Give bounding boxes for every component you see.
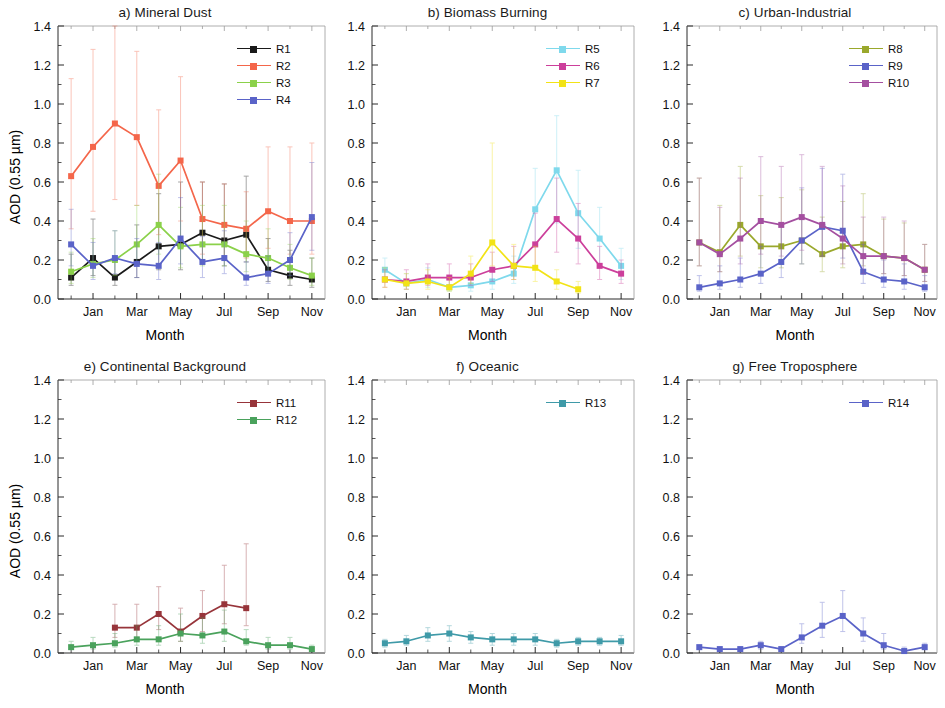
series-marker-R14 <box>799 634 805 640</box>
legend-label: R8 <box>888 43 903 55</box>
x-tick-label: Sep <box>567 659 589 673</box>
x-tick-label: May <box>480 305 504 319</box>
legend-label: R13 <box>585 397 606 409</box>
series-line-R12 <box>71 632 312 650</box>
plot-area-a: 0.00.20.40.60.81.01.21.4JanMarMayJulSepN… <box>14 22 341 345</box>
series-marker-R13 <box>532 636 538 642</box>
series-marker-R9 <box>717 280 723 286</box>
series-marker-R6 <box>575 236 581 242</box>
y-tick-label: 0.8 <box>34 137 51 151</box>
legend-item-R5[interactable]: R5 <box>546 40 600 57</box>
series-marker-R14 <box>778 646 784 652</box>
legend-item-R6[interactable]: R6 <box>546 57 600 74</box>
x-tick-label: Mar <box>750 659 772 673</box>
series-marker-R14 <box>758 642 764 648</box>
x-axis-label: Month <box>645 327 945 343</box>
x-tick-label: Sep <box>257 659 279 673</box>
series-line-R7 <box>385 242 578 289</box>
legend-item-R2[interactable]: R2 <box>237 57 291 74</box>
series-marker-R13 <box>446 631 452 637</box>
series-marker-R10 <box>881 253 887 259</box>
legend-item-R1[interactable]: R1 <box>237 40 291 57</box>
series-marker-R13 <box>403 638 409 644</box>
legend-swatch-icon <box>546 77 580 88</box>
series-marker-R4 <box>309 214 315 220</box>
legend-label: R12 <box>276 414 297 426</box>
series-marker-R13 <box>575 638 581 644</box>
y-tick-label: 0.0 <box>34 293 51 307</box>
y-tick-label: 0.8 <box>348 137 365 151</box>
series-marker-R3 <box>243 251 249 257</box>
series-marker-R7 <box>532 265 538 271</box>
series-marker-R14 <box>881 642 887 648</box>
legend-item-R10[interactable]: R10 <box>849 74 909 91</box>
series-marker-R2 <box>134 134 140 140</box>
series-marker-R10 <box>778 222 784 228</box>
series-marker-R4 <box>265 271 271 277</box>
error-bars-R1 <box>69 176 315 287</box>
series-marker-R12 <box>221 629 227 635</box>
legend-a: R1R2R3R4 <box>237 40 291 108</box>
chart-panel-g: g) Free Troposphere0.00.20.40.60.81.01.2… <box>645 354 945 708</box>
legend-label: R14 <box>888 397 909 409</box>
x-tick-label: May <box>169 305 193 319</box>
series-marker-R5 <box>532 206 538 212</box>
series-marker-R4 <box>112 255 118 261</box>
y-tick-label: 1.0 <box>663 452 680 466</box>
series-marker-R7 <box>425 278 431 284</box>
legend-swatch-icon <box>237 77 271 88</box>
y-tick-label: 0.8 <box>663 491 680 505</box>
y-tick-label: 0.8 <box>348 491 365 505</box>
x-tick-label: Nov <box>301 305 324 319</box>
legend-item-R9[interactable]: R9 <box>849 57 909 74</box>
x-axis-label: Month <box>330 327 645 343</box>
legend-e: R11R12 <box>237 394 297 428</box>
series-marker-R4 <box>178 236 184 242</box>
series-marker-R2 <box>112 121 118 127</box>
series-marker-R12 <box>265 642 271 648</box>
x-axis-label: Month <box>330 681 645 697</box>
series-marker-R10 <box>922 267 928 273</box>
series-marker-R12 <box>156 636 162 642</box>
legend-item-R14[interactable]: R14 <box>849 394 909 411</box>
legend-item-R13[interactable]: R13 <box>546 394 606 411</box>
x-tick-label: May <box>790 305 814 319</box>
legend-item-R11[interactable]: R11 <box>237 394 297 411</box>
legend-item-R12[interactable]: R12 <box>237 411 297 428</box>
x-tick-label: Mar <box>439 305 461 319</box>
series-marker-R7 <box>382 277 388 283</box>
y-tick-label: 0.4 <box>34 215 51 229</box>
series-marker-R10 <box>799 214 805 220</box>
series-marker-R3 <box>309 273 315 279</box>
legend-b: R5R6R7 <box>546 40 600 91</box>
x-tick-label: May <box>790 659 814 673</box>
legend-item-R4[interactable]: R4 <box>237 91 291 108</box>
x-tick-label: Jan <box>710 305 730 319</box>
legend-swatch-icon <box>237 414 271 425</box>
series-marker-R4 <box>287 257 293 263</box>
series-marker-R2 <box>178 158 184 164</box>
y-tick-label: 0.4 <box>348 215 365 229</box>
legend-label: R2 <box>276 60 291 72</box>
y-tick-label: 1.2 <box>34 413 51 427</box>
series-marker-R11 <box>112 625 118 631</box>
series-line-R14 <box>699 616 924 651</box>
legend-label: R4 <box>276 94 291 106</box>
legend-item-R8[interactable]: R8 <box>849 40 909 57</box>
legend-item-R7[interactable]: R7 <box>546 74 600 91</box>
series-marker-R10 <box>758 218 764 224</box>
y-tick-label: 0.6 <box>348 530 365 544</box>
chart-panel-e: e) Continental BackgroundAOD (0.55 µm)0.… <box>0 354 330 708</box>
y-tick-label: 0.6 <box>348 176 365 190</box>
error-bars-R10 <box>697 155 927 282</box>
legend-swatch-icon <box>237 60 271 71</box>
series-marker-R12 <box>68 644 74 650</box>
y-tick-label: 1.2 <box>663 413 680 427</box>
error-bars-R7 <box>382 143 580 293</box>
y-tick-label: 1.0 <box>348 452 365 466</box>
series-marker-R9 <box>778 259 784 265</box>
legend-item-R3[interactable]: R3 <box>237 74 291 91</box>
series-marker-R6 <box>618 271 624 277</box>
series-line-R5 <box>385 170 621 287</box>
y-tick-label: 1.4 <box>663 22 680 34</box>
